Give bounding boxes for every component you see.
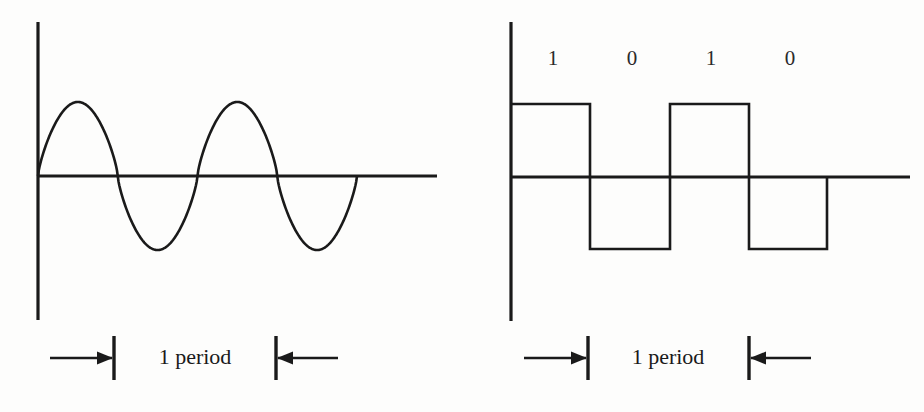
- sine-wave-panel: [38, 22, 437, 380]
- bit-label-3: 0: [775, 48, 805, 69]
- square-period-label: 1 period: [578, 346, 758, 368]
- bit-label-1: 0: [617, 48, 647, 69]
- bit-label-2: 1: [696, 48, 726, 69]
- square-wave-panel: [511, 22, 910, 380]
- sine-period-label: 1 period: [105, 346, 285, 368]
- waveform-figure: 1 period 1 period 1 0 1 0: [0, 0, 924, 412]
- bit-label-0: 1: [538, 48, 568, 69]
